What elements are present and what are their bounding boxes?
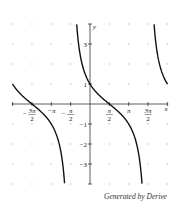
grid-dot (31, 123, 32, 124)
grid-dot (31, 143, 32, 144)
grid-dot (12, 63, 13, 64)
grid-dot (167, 183, 168, 184)
grid-dot (51, 43, 52, 44)
grid-dot (147, 123, 148, 124)
x-tick-denominator: 2 (146, 115, 150, 123)
grid-dot (167, 63, 168, 64)
grid-dot (109, 163, 110, 164)
x-axis-label: x (163, 105, 168, 113)
y-tick-label: −2 (80, 141, 88, 149)
grid-dot (147, 43, 148, 44)
grid-dot (51, 183, 52, 184)
generated-by-label: Generated by Derive (104, 192, 167, 201)
x-tick-label: π (127, 107, 131, 115)
grid-dot (147, 23, 148, 24)
grid-dot (31, 43, 32, 44)
grid-dot (109, 83, 110, 84)
grid-dot (31, 63, 32, 64)
grid-dot (109, 183, 110, 184)
x-tick-denominator: 2 (69, 115, 73, 123)
x-tick-label: −π (47, 107, 56, 115)
grid-dot (70, 43, 71, 44)
grid-dot (31, 183, 32, 184)
grid-dot (109, 143, 110, 144)
curve-branch-right (154, 24, 167, 84)
grid-dot (109, 123, 110, 124)
y-tick-label: −3 (80, 161, 88, 169)
grid-dot (128, 23, 129, 24)
grid-dot (12, 123, 13, 124)
axes: xy (12, 23, 169, 184)
grid-dot (109, 43, 110, 44)
x-tick-denominator: 2 (108, 115, 112, 123)
grid-dot (70, 183, 71, 184)
grid-dot (70, 143, 71, 144)
x-tick-minus: − (62, 110, 66, 118)
grid-dot (31, 163, 32, 164)
grid-dot (128, 143, 129, 144)
x-tick-numerator: 3π (144, 107, 153, 115)
grid-dot (70, 163, 71, 164)
grid-dot (147, 143, 148, 144)
x-tick-minus: − (23, 110, 27, 118)
grid-dot (128, 163, 129, 164)
x-tick-numerator: π (108, 107, 112, 115)
grid-dot (12, 143, 13, 144)
x-tick-numerator: 3π (27, 107, 36, 115)
x-tick-numerator: π (69, 107, 73, 115)
grid-dot (51, 23, 52, 24)
grid-dot (12, 163, 13, 164)
grid-dot (128, 183, 129, 184)
grid-dot (51, 63, 52, 64)
grid-dot (51, 143, 52, 144)
chart-plot: xy −3π2−π−π2π2π3π231−1−2−3 (0, 0, 181, 206)
grid-dot (70, 123, 71, 124)
grid-dot (109, 23, 110, 24)
grid-dot (147, 63, 148, 64)
grid-dot (147, 163, 148, 164)
y-tick-label: 1 (84, 81, 88, 89)
grid-dot (128, 43, 129, 44)
grid-dot (109, 63, 110, 64)
grid-dot (31, 23, 32, 24)
grid-dot (167, 163, 168, 164)
grid-dot (128, 63, 129, 64)
grid-dot (167, 123, 168, 124)
grid-dot (31, 83, 32, 84)
grid-dot (12, 43, 13, 44)
x-tick-denominator: 2 (30, 115, 34, 123)
y-tick-label: −1 (80, 121, 88, 129)
grid-dot (70, 63, 71, 64)
grid-dot (12, 23, 13, 24)
grid-dot (167, 23, 168, 24)
y-tick-label: 3 (84, 41, 88, 49)
y-axis-label: y (92, 23, 97, 31)
grid-dot (51, 163, 52, 164)
grid-dot (147, 183, 148, 184)
grid-dot (51, 83, 52, 84)
grid-dot (70, 83, 71, 84)
grid-dot (128, 83, 129, 84)
grid-dot (167, 43, 168, 44)
grid-dot (167, 143, 168, 144)
grid-dot (70, 23, 71, 24)
grid-dot (147, 83, 148, 84)
curve-branch-left (13, 84, 65, 183)
grid-dot (12, 183, 13, 184)
